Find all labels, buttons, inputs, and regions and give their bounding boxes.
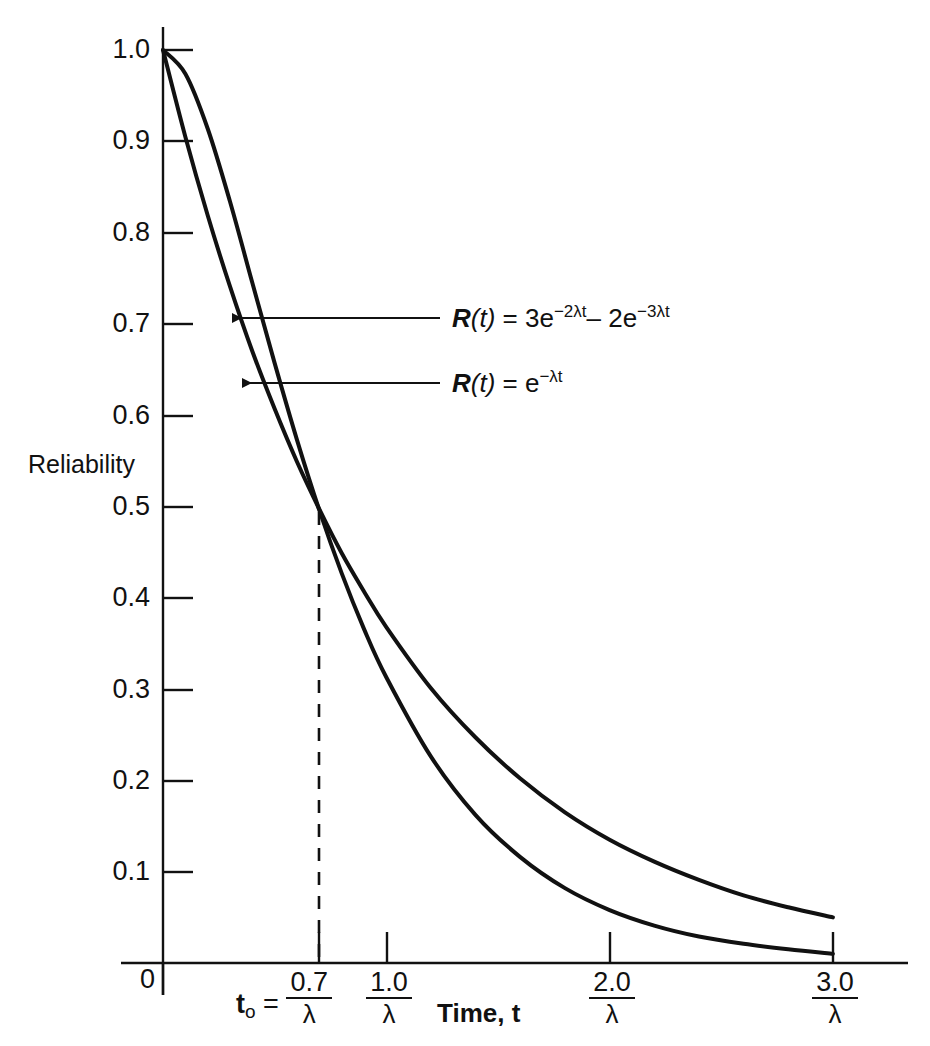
y-tick-label: 0.1: [88, 858, 150, 885]
t0-tick-label-group: to = 0.7 λ: [236, 968, 332, 1029]
equation-middle: – 2e: [587, 303, 638, 333]
x-tick-fraction-07: 0.7 λ: [286, 968, 332, 1029]
curve-single-exponential: [163, 50, 833, 917]
fraction-denominator: λ: [286, 999, 332, 1028]
y-tick-label: 0.6: [88, 402, 150, 429]
fraction-numerator: 0.7: [286, 968, 332, 999]
equation-r-symbol: R: [452, 368, 471, 398]
equation-body: = 3e: [503, 303, 554, 333]
t0-prefix: to =: [236, 989, 286, 1029]
curve-redundant-system: [163, 50, 833, 954]
fraction-denominator: λ: [366, 999, 412, 1028]
equation-exponent-1: −2λt: [554, 302, 587, 321]
origin-label: 0: [140, 966, 155, 993]
y-tick-label: 0.3: [88, 676, 150, 703]
chart-plot-area: [0, 0, 930, 1046]
fraction-numerator: 3.0: [812, 968, 858, 999]
equation-r-symbol: R: [452, 303, 471, 333]
y-axis-ticks: [163, 50, 193, 872]
x-tick-fraction-20: 2.0 λ: [589, 968, 635, 1029]
y-tick-label: 0.7: [88, 310, 150, 337]
reliability-chart-figure: 1.0 0.9 0.8 0.7 0.6 0.5 0.4 0.3 0.2 0.1 …: [0, 0, 930, 1046]
x-tick-fraction-30: 3.0 λ: [812, 968, 858, 1029]
fraction-numerator: 1.0: [366, 968, 412, 999]
y-tick-label: 0.2: [88, 767, 150, 794]
equation-body: = e: [503, 368, 540, 398]
equation-argument: (t): [471, 368, 496, 398]
y-tick-label: 0.9: [88, 127, 150, 154]
fraction-denominator: λ: [812, 999, 858, 1028]
y-tick-label: 1.0: [88, 36, 150, 63]
x-tick-fraction-10: 1.0 λ: [366, 968, 412, 1029]
fraction-numerator: 2.0: [589, 968, 635, 999]
lower-curve-equation-label: R(t) = e−λt: [452, 368, 563, 399]
equation-argument: (t): [471, 303, 496, 333]
x-axis-title: Time, t: [437, 1000, 520, 1026]
equation-exponent-1: −λt: [539, 367, 562, 386]
y-tick-label: 0.4: [88, 584, 150, 611]
fraction-denominator: λ: [589, 999, 635, 1028]
y-tick-label: 0.5: [88, 493, 150, 520]
equation-exponent-2: −3λt: [637, 302, 670, 321]
y-axis-title: Reliability: [28, 452, 135, 477]
y-tick-label: 0.8: [88, 219, 150, 246]
upper-curve-equation-label: R(t) = 3e−2λt– 2e−3λt: [452, 303, 670, 334]
